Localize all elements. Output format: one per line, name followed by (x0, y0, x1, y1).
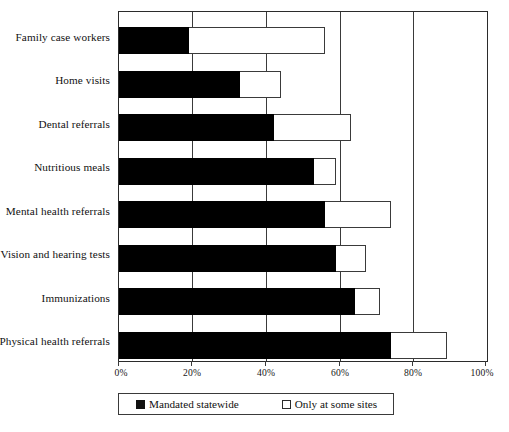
stacked-bar-chart: Family case workers Home visits Dental r… (0, 0, 509, 432)
tick-label-40: 40% (257, 367, 275, 379)
table-row (119, 245, 487, 272)
bar-segment-mandated (119, 288, 355, 315)
legend-item-only-at-some-sites: Only at some sites (282, 398, 377, 411)
category-label-dental-referrals: Dental referrals (39, 118, 110, 131)
table-row (119, 288, 487, 315)
bar-segment-some-sites (355, 288, 381, 315)
category-label-mental-health-referrals: Mental health referrals (6, 205, 110, 218)
legend-label-mandated-statewide: Mandated statewide (149, 398, 239, 411)
tick-label-0: 0% (114, 367, 127, 379)
tick-label-80: 80% (404, 367, 422, 379)
category-axis: Family case workers Home visits Dental r… (0, 11, 114, 360)
category-label-family-case-workers: Family case workers (16, 31, 110, 44)
bar-segment-mandated (119, 332, 391, 359)
category-label-home-visits: Home visits (55, 74, 110, 87)
category-label-physical-health-referrals: Physical health referrals (0, 335, 110, 348)
tick-mark-100 (485, 361, 486, 366)
legend-swatch-filled-icon (136, 400, 145, 409)
legend-item-mandated-statewide: Mandated statewide (136, 398, 239, 411)
bar-segment-some-sites (314, 158, 336, 185)
tick-label-60: 60% (331, 367, 349, 379)
bar-segment-mandated (119, 245, 336, 272)
bar-segment-some-sites (189, 27, 325, 54)
category-label-immunizations: Immunizations (42, 292, 110, 305)
plot-area (118, 11, 488, 362)
bar-segment-some-sites (391, 332, 446, 359)
value-axis: 0% 20% 40% 60% 80% 100% (118, 361, 486, 383)
bar-segment-mandated (119, 201, 325, 228)
legend-label-only-at-some-sites: Only at some sites (295, 398, 377, 411)
legend-swatch-open-icon (282, 400, 291, 409)
tick-mark-60 (339, 361, 340, 366)
bar-segment-mandated (119, 27, 189, 54)
tick-mark-20 (191, 361, 192, 366)
bar-segment-some-sites (274, 114, 351, 141)
tick-mark-40 (265, 361, 266, 366)
bar-segment-some-sites (336, 245, 365, 272)
table-row (119, 332, 487, 359)
bar-segment-some-sites (240, 71, 280, 98)
bar-segment-mandated (119, 158, 314, 185)
table-row (119, 71, 487, 98)
category-label-vision-and-hearing-tests: Vision and hearing tests (0, 248, 110, 261)
tick-label-20: 20% (183, 367, 201, 379)
bar-segment-mandated (119, 71, 240, 98)
tick-mark-80 (412, 361, 413, 366)
table-row (119, 114, 487, 141)
legend: Mandated statewide Only at some sites (118, 393, 394, 415)
table-row (119, 27, 487, 54)
tick-mark-0 (118, 361, 119, 366)
table-row (119, 158, 487, 185)
tick-label-100: 100% (470, 367, 493, 379)
bar-segment-some-sites (325, 201, 391, 228)
bars-layer (119, 12, 487, 361)
bar-segment-mandated (119, 114, 274, 141)
table-row (119, 201, 487, 228)
category-label-nutritious-meals: Nutritious meals (34, 161, 110, 174)
